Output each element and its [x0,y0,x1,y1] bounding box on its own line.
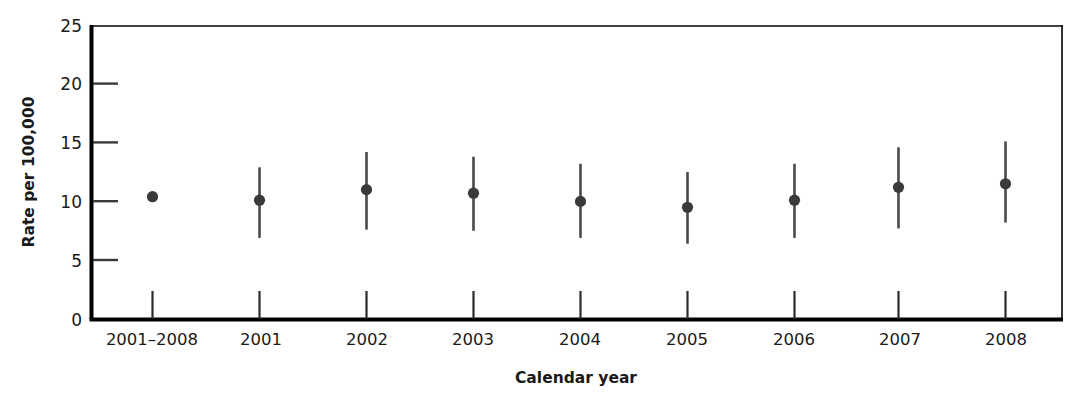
x-tick-label-2004: 2004 [559,330,601,349]
data-point-group [575,164,586,238]
data-point-group [147,191,158,202]
y-tick-label-5: 5 [71,251,82,271]
y-tick-label-20: 20 [60,74,82,94]
x-tick-label-2003: 2003 [452,330,494,349]
x-tick-label-2005: 2005 [666,330,708,349]
data-point-group [789,164,800,238]
data-point-marker [789,195,800,206]
y-tick-label-0: 0 [71,310,82,330]
data-point-marker [468,188,479,199]
x-tick-label-2007: 2007 [879,330,921,349]
data-point-group [468,157,479,231]
data-point-marker [254,195,265,206]
data-point-marker [147,191,158,202]
y-tick-label-10: 10 [60,192,82,212]
y-tick-labels: 0 5 10 15 20 25 [60,16,82,330]
y-tick-label-15: 15 [60,133,82,153]
axis-frame [90,25,1064,320]
x-tick-labels: 2001–2008 2001 2002 2003 2004 2005 2006 … [106,330,1027,349]
x-tick-label-2008: 2008 [985,330,1027,349]
y-axis-title: Rate per 100,000 [20,96,38,247]
y-tick-label-25: 25 [60,16,82,36]
data-point-marker [361,184,372,195]
x-axis-ticks [153,291,1006,319]
data-point-group [254,167,265,238]
x-tick-label-2001: 2001 [240,330,282,349]
data-point-marker [575,196,586,207]
data-point-group [893,147,904,228]
data-point-group [682,172,693,244]
y-axis-ticks [93,84,118,260]
chart-figure: 0 5 10 15 20 25 Rate per 100,000 2001–20… [0,0,1078,404]
chart-plot-area: 0 5 10 15 20 25 Rate per 100,000 2001–20… [0,0,1078,404]
data-series-rate [147,141,1011,243]
x-tick-label-2002: 2002 [346,330,388,349]
x-tick-label-2006: 2006 [773,330,815,349]
data-point-group [1000,141,1011,222]
x-axis-title: Calendar year [515,369,637,387]
x-tick-label-2001-2008: 2001–2008 [106,330,198,349]
data-point-marker [893,182,904,193]
data-point-marker [682,202,693,213]
data-point-marker [1000,178,1011,189]
data-point-group [361,152,372,230]
